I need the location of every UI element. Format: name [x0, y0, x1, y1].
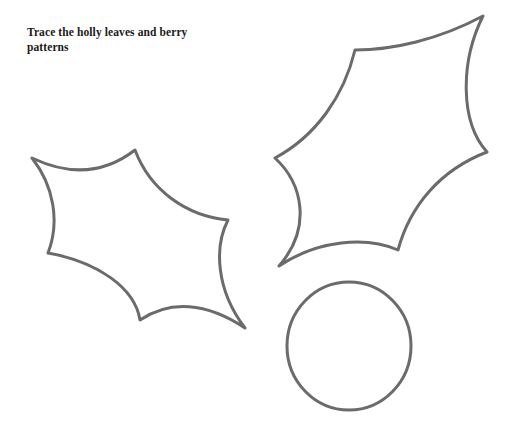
worksheet-canvas: Trace the holly leaves and berry pattern…: [0, 0, 517, 427]
holly-leaf-large: [275, 16, 487, 266]
shapes-layer: [0, 0, 517, 427]
holly-berry: [287, 282, 411, 410]
holly-leaf-small: [32, 150, 245, 328]
